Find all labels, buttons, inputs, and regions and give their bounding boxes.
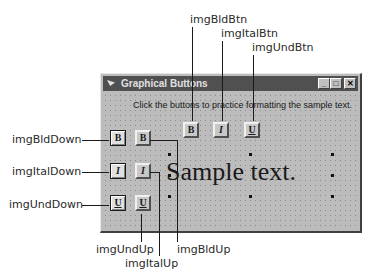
bold-button[interactable]: B [183, 122, 199, 138]
callout-imgitalup: imgItalUp [125, 258, 178, 269]
title-bar[interactable]: Graphical Buttons _ □ ✕ [103, 76, 358, 91]
leader-line [253, 55, 254, 121]
leader-line [159, 172, 160, 256]
sample-text-label[interactable]: Sample text. [166, 159, 296, 185]
leader-line [82, 172, 109, 173]
selection-handle [249, 195, 252, 198]
leader-line [141, 214, 142, 242]
callout-imgblddown: imgBldDown [12, 134, 82, 145]
underline-button[interactable]: U [244, 122, 260, 138]
leader-line [222, 41, 223, 121]
selection-handle [331, 195, 334, 198]
leader-line [150, 140, 178, 141]
selection-handle [168, 153, 171, 156]
minimize-button[interactable]: _ [318, 78, 330, 89]
italic-button[interactable]: I [213, 122, 229, 138]
selection-handle [331, 174, 334, 177]
leader-line [82, 205, 109, 206]
bold-up-image: B [135, 130, 151, 146]
leader-line [82, 140, 109, 141]
bold-down-image: B [110, 130, 126, 146]
selection-handle [331, 153, 334, 156]
callout-imgitalbtn: imgItalBtn [221, 28, 278, 39]
form-client-area: Click the buttons to practice formatting… [103, 93, 358, 229]
callout-imgunddown: imgUndDown [9, 199, 83, 210]
instruction-label: Click the buttons to practice formatting… [133, 100, 352, 110]
graphical-buttons-window: Graphical Buttons _ □ ✕ Click the button… [100, 73, 362, 233]
selection-handle [249, 153, 252, 156]
app-icon [107, 80, 115, 86]
window-title: Graphical Buttons [121, 76, 208, 91]
underline-up-image: U [135, 195, 151, 211]
underline-down-image: U [110, 195, 126, 211]
maximize-button[interactable]: □ [330, 78, 342, 89]
callout-imgitaldown: imgItalDown [12, 166, 81, 177]
close-button[interactable]: ✕ [344, 78, 356, 89]
callout-imgbldbtn: imgBldBtn [190, 14, 247, 25]
leader-line [177, 140, 178, 242]
italic-down-image: I [110, 163, 126, 179]
callout-imgundbtn: imgUndBtn [252, 42, 314, 53]
callout-imgundup: imgUndUp [96, 244, 154, 255]
selection-handle [168, 174, 171, 177]
italic-up-image: I [135, 163, 151, 179]
leader-line [192, 27, 193, 121]
callout-imgbldup: imgBldUp [177, 244, 230, 255]
selection-handle [168, 195, 171, 198]
